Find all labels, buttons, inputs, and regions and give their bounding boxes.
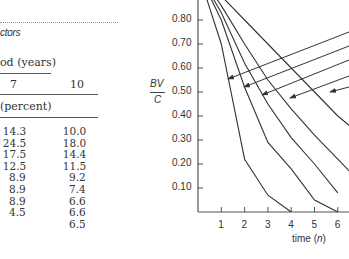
curve-line (198, 0, 291, 212)
y-tick-label: 0.10 (172, 181, 191, 192)
curve-line (198, 0, 338, 212)
curve-line (198, 0, 349, 171)
y-tick-label: 0.60 (172, 61, 191, 72)
x-tick-label: 6 (335, 219, 341, 230)
chart-axes (198, 0, 349, 212)
y-axis-label-numerator: BV (150, 78, 163, 89)
y-tick-label: 0.20 (172, 157, 191, 168)
y-tick-label: 0.80 (172, 13, 191, 24)
x-tick-label: 1 (218, 219, 224, 230)
annotation-arrow (228, 32, 349, 79)
chart-curves (198, 0, 349, 212)
x-tick-label: 2 (242, 219, 248, 230)
y-tick-label: 0.30 (172, 133, 191, 144)
x-tick-label: 3 (265, 219, 271, 230)
y-axis-label-fraction-bar (150, 92, 165, 93)
y-tick-label: 0.50 (172, 85, 191, 96)
annotation-arrow (330, 87, 349, 92)
y-tick-label: 0.40 (172, 109, 191, 120)
x-axis-label: time (n) (292, 233, 326, 244)
y-axis-label-denominator: C (154, 94, 161, 105)
y-tick-label: 0.70 (172, 37, 191, 48)
annotation-arrow (262, 60, 349, 95)
annotation-arrow (290, 76, 349, 98)
curve-line (198, 0, 338, 193)
x-tick-label: 4 (288, 219, 294, 230)
x-tick-label: 5 (312, 219, 318, 230)
